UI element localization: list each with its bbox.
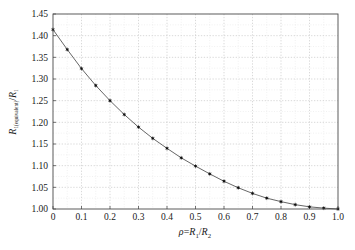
x-tick-label: 1.0 bbox=[332, 212, 344, 222]
chart-canvas: 00.10.20.30.40.50.60.70.80.91.0 1.001.05… bbox=[0, 0, 355, 250]
x-tick-label: 0.1 bbox=[76, 212, 88, 222]
x-axis-title: ρ=R1/R2 bbox=[178, 226, 212, 239]
y-tick-label: 1.05 bbox=[31, 183, 48, 193]
x-axis-tick-labels: 00.10.20.30.40.50.60.70.80.91.0 bbox=[51, 212, 345, 222]
y-axis-title: R1(equivalent)/R1 bbox=[7, 89, 20, 136]
y-title-r1-sub: 1(equivalent) bbox=[13, 101, 20, 129]
x-tick-label: 0.5 bbox=[190, 212, 202, 222]
x-tick-label: 0.8 bbox=[275, 212, 287, 222]
y-tick-label: 1.25 bbox=[31, 96, 48, 106]
y-title-r2-sub: 1 bbox=[13, 89, 19, 92]
x-tick-label: 0.9 bbox=[304, 212, 316, 222]
y-tick-label: 1.40 bbox=[31, 31, 48, 41]
y-tick-label: 1.00 bbox=[31, 204, 48, 214]
y-title-r2: R bbox=[7, 92, 18, 99]
y-tick-label: 1.20 bbox=[31, 118, 48, 128]
y-axis-tick-labels: 1.001.051.101.151.201.251.301.351.401.45 bbox=[31, 9, 48, 214]
y-title-r1: R bbox=[7, 129, 18, 136]
x-tick-label: 0 bbox=[51, 212, 56, 222]
x-title-r2-sub: 2 bbox=[208, 232, 212, 239]
x-title-r1: R bbox=[188, 226, 195, 237]
x-tick-label: 0.3 bbox=[133, 212, 145, 222]
x-tick-label: 0.2 bbox=[104, 212, 116, 222]
x-title-r2: R bbox=[201, 226, 208, 237]
chart-figure: 00.10.20.30.40.50.60.70.80.91.0 1.001.05… bbox=[0, 0, 355, 250]
x-tick-label: 0.6 bbox=[218, 212, 230, 222]
x-tick-label: 0.7 bbox=[247, 212, 259, 222]
x-tick-label: 0.4 bbox=[161, 212, 173, 222]
y-tick-label: 1.10 bbox=[31, 161, 48, 171]
y-tick-label: 1.35 bbox=[31, 53, 48, 63]
y-tick-label: 1.45 bbox=[31, 9, 48, 19]
y-tick-label: 1.30 bbox=[31, 74, 48, 84]
y-tick-label: 1.15 bbox=[31, 139, 48, 149]
